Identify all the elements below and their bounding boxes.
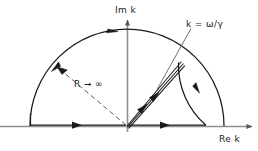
radius-label: R ➞ ∞ [74, 79, 103, 89]
branch-cut-upper-edge [127, 62, 182, 127]
right-real-arrowhead [160, 122, 170, 129]
real-axis-contour-group [30, 122, 206, 129]
branch-ray-leader-line [157, 29, 191, 90]
radius-arrowhead [57, 67, 67, 75]
left-real-arrowhead [72, 122, 82, 129]
imaginary-axis-label: Im k [115, 5, 136, 15]
branch-cut-center-line [129, 66, 185, 129]
small-arc-arrowhead [193, 83, 200, 93]
real-axis-label: Re k [219, 134, 240, 144]
branch-ray-label: k = ω/γ [186, 19, 223, 29]
contour-figure: Im k Re k k = ω/γ R ➞ ∞ [0, 0, 258, 151]
small-arc-group [178, 63, 206, 126]
radius-annotation-group [57, 67, 126, 125]
branch-ray-leader-group [157, 29, 191, 90]
small-arc [178, 63, 206, 126]
axes-group [0, 20, 252, 132]
branch-cut-slit-group [127, 62, 185, 129]
